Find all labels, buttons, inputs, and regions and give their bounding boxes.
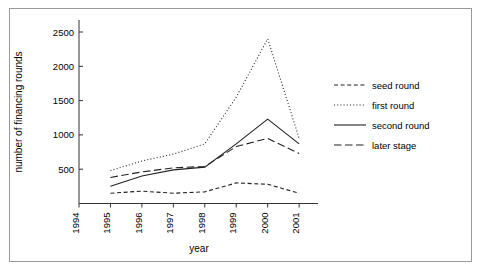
x-tick-label: 2000 [259, 213, 270, 234]
legend-label-first-round: first round [372, 100, 414, 111]
x-tick-label: 2001 [290, 213, 301, 234]
x-axis-title: year [189, 243, 209, 254]
y-tick-label: 2000 [53, 61, 74, 72]
legend-label-later-stage: later stage [372, 140, 416, 151]
y-tick-label: 2500 [53, 27, 74, 38]
series-line-seed-round [110, 183, 299, 193]
x-tick-label: 1994 [70, 213, 81, 234]
y-tick-label: 500 [58, 164, 74, 175]
y-tick-label: 1000 [53, 129, 74, 140]
x-axis-tick-labels: 19941995199619971998199920002001 [70, 213, 301, 234]
x-tick-label: 1999 [227, 213, 238, 234]
line-chart: 5001000150020002500 19941995199619971998… [0, 0, 481, 270]
x-tick-label: 1996 [133, 213, 144, 234]
y-axis-tick-labels: 5001000150020002500 [53, 27, 74, 175]
legend-label-seed-round: seed round [372, 80, 420, 91]
y-axis-title: number of financing rounds [13, 51, 24, 172]
y-tick-label: 1500 [53, 95, 74, 106]
x-tick-label: 1998 [196, 213, 207, 234]
chart-legend: seed roundfirst roundsecond roundlater s… [334, 80, 430, 151]
chart-figure: 5001000150020002500 19941995199619971998… [0, 0, 481, 270]
series-line-later-stage [110, 138, 299, 177]
x-tick-label: 1997 [164, 213, 175, 234]
legend-label-second-round: second round [372, 120, 430, 131]
data-series-layer [110, 39, 299, 193]
series-line-first-round [110, 39, 299, 171]
x-axis-ticks [79, 204, 299, 208]
y-axis-ticks [79, 32, 83, 169]
series-line-second-round [110, 119, 299, 186]
x-tick-label: 1995 [101, 213, 112, 234]
